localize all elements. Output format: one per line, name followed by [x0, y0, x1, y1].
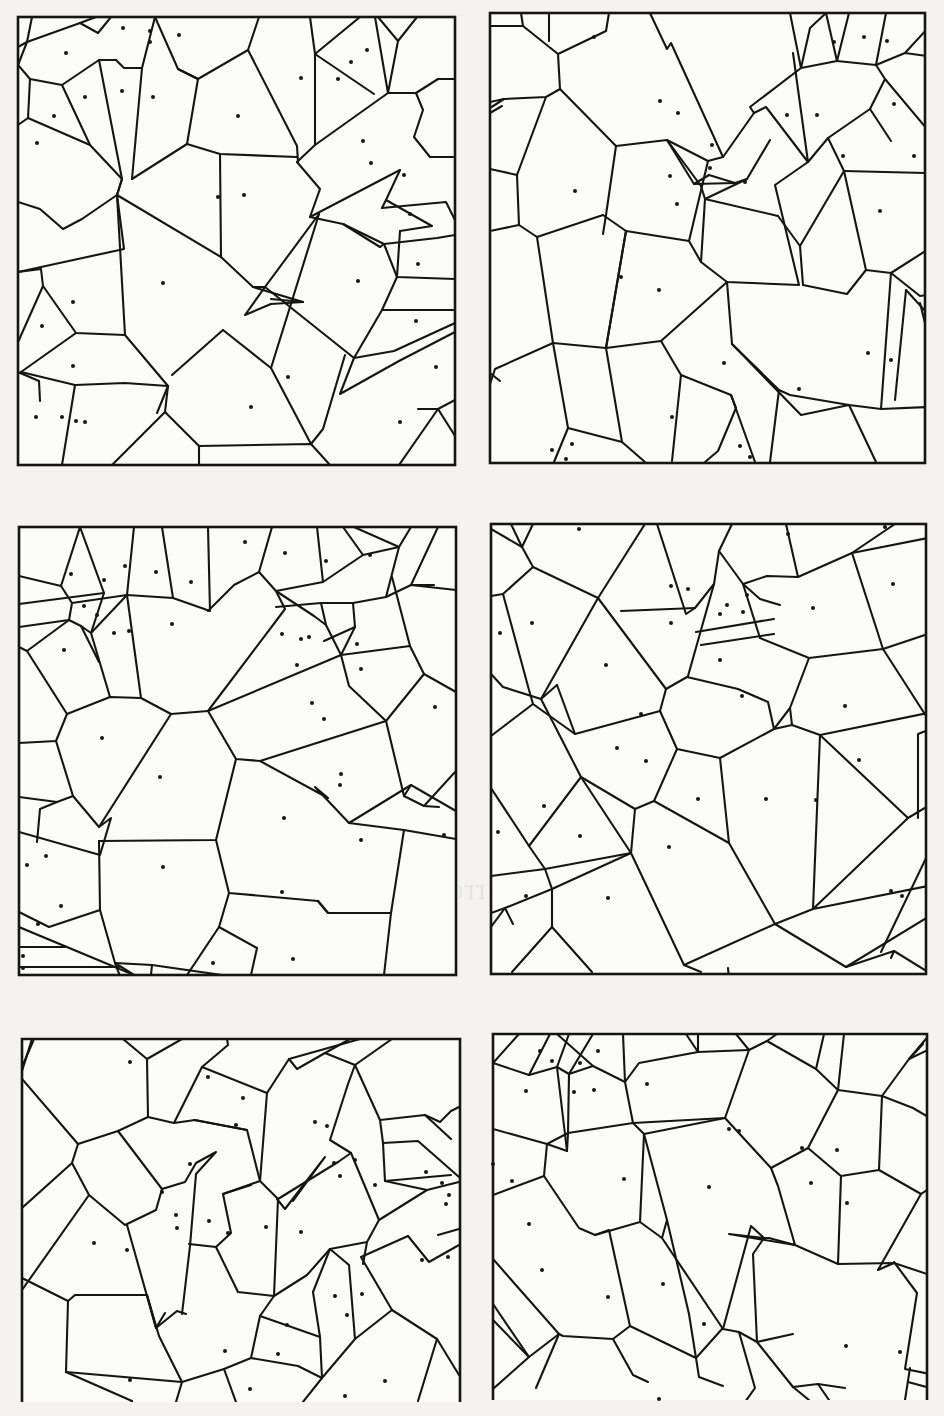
- seed-point: [446, 1255, 450, 1259]
- panel-2: [490, 13, 925, 463]
- seed-point: [148, 29, 152, 33]
- seed-point: [369, 161, 373, 165]
- seed-point: [737, 1129, 741, 1133]
- seed-point: [286, 375, 290, 379]
- seed-point: [402, 173, 406, 177]
- seed-point: [125, 1248, 129, 1252]
- voronoi-figure: Voronoi tessellations (mirrored show-thr…: [0, 0, 944, 1416]
- seed-point: [248, 1387, 252, 1391]
- panel-2-diagram: [490, 13, 925, 463]
- seed-point: [339, 772, 343, 776]
- seed-point: [128, 1060, 132, 1064]
- seed-point: [718, 658, 722, 662]
- seed-point: [285, 1323, 289, 1327]
- seed-point: [615, 746, 619, 750]
- seed-point: [21, 954, 25, 958]
- seed-point: [360, 1292, 364, 1296]
- seed-point: [898, 1350, 902, 1354]
- seed-point: [578, 834, 582, 838]
- seed-point: [444, 1202, 448, 1206]
- seed-point: [843, 704, 847, 708]
- seed-point: [797, 387, 801, 391]
- voronoi-edge: [567, 1133, 568, 1151]
- seed-point: [365, 48, 369, 52]
- seed-point: [669, 584, 673, 588]
- seed-point: [128, 1378, 132, 1382]
- seed-point: [510, 1179, 514, 1183]
- seed-point: [702, 1322, 706, 1326]
- seed-point: [727, 1127, 731, 1131]
- seed-point: [658, 99, 662, 103]
- seed-point: [120, 89, 124, 93]
- seed-point: [573, 189, 577, 193]
- seed-point: [570, 442, 574, 446]
- seed-point: [725, 603, 729, 607]
- seed-point: [738, 444, 742, 448]
- seed-point: [800, 1146, 804, 1150]
- seed-point: [748, 455, 752, 459]
- seed-point: [236, 114, 240, 118]
- seed-point: [373, 1183, 377, 1187]
- seed-point: [785, 113, 789, 117]
- seed-point: [234, 1123, 238, 1127]
- seed-point: [578, 1061, 582, 1065]
- seed-point: [148, 40, 152, 44]
- seed-point: [577, 527, 581, 531]
- voronoi-edge: [424, 806, 439, 807]
- seed-point: [291, 957, 295, 961]
- seed-point: [158, 775, 162, 779]
- seed-point: [550, 448, 554, 452]
- seed-point: [878, 209, 882, 213]
- seed-point: [498, 631, 502, 635]
- seed-point: [189, 580, 193, 584]
- seed-point: [862, 35, 866, 39]
- seed-point: [524, 894, 528, 898]
- seed-point: [841, 154, 845, 158]
- seed-point: [62, 648, 66, 652]
- seed-point: [414, 319, 418, 323]
- seed-point: [82, 604, 86, 608]
- seed-point: [524, 1089, 528, 1093]
- seed-point: [40, 324, 44, 328]
- seed-point: [282, 816, 286, 820]
- seed-point: [21, 966, 25, 970]
- seed-point: [151, 95, 155, 99]
- seed-point: [92, 1241, 96, 1245]
- panel-5: [22, 1039, 460, 1402]
- seed-point: [161, 865, 165, 869]
- voronoi-edge: [128, 1401, 132, 1409]
- seed-point: [332, 1161, 336, 1165]
- seed-point: [216, 195, 220, 199]
- seed-point: [175, 1226, 179, 1230]
- seed-point: [25, 863, 29, 867]
- seed-point: [416, 262, 420, 266]
- seed-point: [299, 76, 303, 80]
- seed-point: [299, 637, 303, 641]
- seed-point: [36, 922, 40, 926]
- seed-point: [359, 667, 363, 671]
- seed-point: [434, 365, 438, 369]
- seed-point: [675, 202, 679, 206]
- seed-point: [538, 1049, 542, 1053]
- seed-point: [154, 570, 158, 574]
- seed-point: [170, 622, 174, 626]
- seed-point: [668, 174, 672, 178]
- seed-point: [442, 833, 446, 837]
- seed-point: [353, 1158, 357, 1162]
- seed-point: [542, 804, 546, 808]
- seed-point: [786, 532, 790, 536]
- seed-point: [619, 275, 623, 279]
- seed-point: [743, 180, 747, 184]
- seed-point: [745, 593, 749, 597]
- seed-point: [333, 1294, 337, 1298]
- seed-point: [550, 1059, 554, 1063]
- seed-point: [161, 281, 165, 285]
- seed-point: [243, 540, 247, 544]
- seed-point: [241, 1096, 245, 1100]
- seed-point: [606, 896, 610, 900]
- seed-point: [845, 1201, 849, 1205]
- seed-point: [398, 420, 402, 424]
- seed-point: [59, 904, 63, 908]
- panel-background: [22, 1039, 460, 1402]
- seed-point: [207, 1219, 211, 1223]
